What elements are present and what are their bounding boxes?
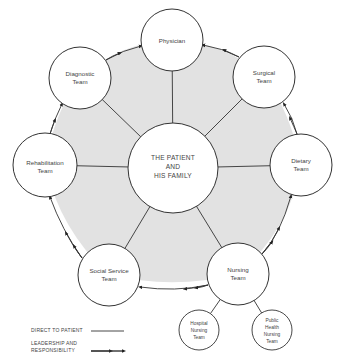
node-public-health-nursing: Public Health Nursing Team bbox=[252, 310, 292, 350]
node-social-service: Social Service Team bbox=[78, 244, 140, 306]
node-diagnostic: Diagnostic Team bbox=[49, 47, 111, 109]
node-rehabilitation-label-2: Team bbox=[37, 167, 52, 174]
node-surgical-label-1: Surgical bbox=[253, 69, 275, 76]
care-team-diagram: THE PATIENT AND HIS FAMILY Physician Sur… bbox=[0, 0, 342, 363]
node-diagnostic-label-1: Diagnostic bbox=[66, 70, 95, 77]
hub-label-line2: AND bbox=[166, 163, 181, 170]
node-rehabilitation: Rehabilitation Team bbox=[13, 133, 77, 197]
node-surgical-label-2: Team bbox=[256, 77, 271, 84]
legend: DIRECT TO PATIENT LEADERSHIP AND RESPONS… bbox=[31, 327, 124, 353]
hub-label-line1: THE PATIENT bbox=[151, 154, 195, 161]
node-public-health-label-3: Nursing bbox=[264, 332, 281, 337]
legend-direct-label: DIRECT TO PATIENT bbox=[31, 327, 83, 333]
node-rehabilitation-label-1: Rehabilitation bbox=[26, 159, 64, 166]
node-hospital-nursing-label-1: Hospital bbox=[190, 321, 207, 326]
node-dietary-label-2: Team bbox=[293, 165, 308, 172]
node-dietary-label-1: Dietary bbox=[291, 157, 312, 164]
node-hospital-nursing: Hospital Nursing Team bbox=[179, 310, 219, 350]
node-hospital-nursing-label-3: Team bbox=[193, 335, 205, 340]
node-public-health-label-2: Health bbox=[265, 325, 279, 330]
patient-hub: THE PATIENT AND HIS FAMILY bbox=[128, 123, 218, 213]
node-public-health-label-4: Team bbox=[266, 339, 278, 344]
node-dietary: Dietary Team bbox=[270, 134, 332, 196]
node-physician-label: Physician bbox=[159, 37, 186, 44]
hub-label-line3: HIS FAMILY bbox=[154, 172, 192, 179]
legend-leadership-label-1: LEADERSHIP AND bbox=[31, 340, 77, 346]
node-public-health-label-1: Public bbox=[265, 318, 279, 323]
node-nursing-label-2: Team bbox=[230, 274, 245, 281]
node-nursing: Nursing Team bbox=[207, 243, 269, 305]
node-social-service-label-1: Social Service bbox=[89, 267, 129, 274]
node-hospital-nursing-label-2: Nursing bbox=[191, 328, 208, 333]
node-nursing-label-1: Nursing bbox=[227, 266, 249, 273]
node-social-service-label-2: Team bbox=[101, 275, 116, 282]
node-diagnostic-label-2: Team bbox=[72, 78, 87, 85]
node-physician: Physician bbox=[141, 9, 203, 71]
legend-leadership-label-2: RESPONSIBILITY bbox=[31, 347, 75, 353]
node-surgical: Surgical Team bbox=[233, 46, 295, 108]
